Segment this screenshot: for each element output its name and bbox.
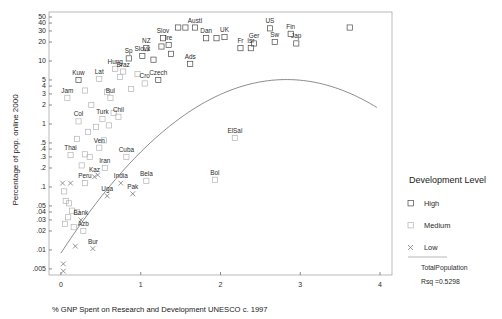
data-point-label: Ven	[94, 137, 105, 144]
data-point	[142, 81, 147, 86]
legend-marker-high[interactable]	[408, 201, 413, 206]
data-point-label: Chil	[113, 106, 124, 113]
data-point-label: Sw	[270, 31, 279, 38]
data-point	[166, 42, 171, 47]
data-point	[222, 34, 227, 39]
data-point-label: Turk	[96, 108, 109, 115]
data-point	[82, 181, 87, 186]
x-tick-label: 4	[378, 281, 382, 288]
data-point	[204, 36, 209, 41]
data-point	[73, 244, 78, 249]
data-point	[117, 74, 122, 79]
y-tick-label: 3	[42, 90, 46, 97]
legend-entry-label[interactable]: Medium	[424, 221, 450, 230]
y-tick-label: .4	[40, 145, 46, 152]
x-tick-label: 0	[59, 281, 63, 288]
regression-fit-line	[61, 80, 377, 254]
data-point-label: Bur	[88, 238, 99, 245]
x-axis-title: % GNP Spent on Research and Development …	[52, 305, 268, 314]
data-point	[76, 77, 81, 82]
data-point	[192, 25, 197, 30]
data-point	[74, 136, 79, 141]
y-tick-label: .005	[32, 265, 46, 272]
data-point-label: Fr	[237, 37, 244, 44]
data-point-label: Peru	[78, 172, 92, 179]
point-labels-layer: AustlUSFinSlovDanUKGerSwJapIreFrIsrNZSlo…	[61, 17, 302, 245]
data-point	[76, 119, 81, 124]
data-point-label: Bank	[74, 209, 89, 216]
legend-marker-low[interactable]	[408, 245, 413, 250]
y-tick-label: 10	[38, 57, 46, 64]
data-point	[183, 25, 188, 30]
data-point	[66, 215, 71, 220]
data-point-label: UK	[220, 26, 230, 33]
data-point	[82, 152, 87, 157]
x-tick-label: 2	[219, 281, 223, 288]
data-point	[106, 123, 111, 128]
data-point	[68, 153, 73, 158]
data-point	[62, 189, 67, 194]
data-point	[61, 262, 66, 267]
data-point	[81, 228, 86, 233]
data-point-label: ElSal	[227, 127, 242, 134]
legend-entry-label[interactable]: Low	[424, 243, 438, 252]
data-point-label: Sp	[125, 47, 133, 55]
legend-entry-label[interactable]: High	[424, 199, 439, 208]
legend: Development LevelHighMediumLowTotalPopul…	[408, 175, 486, 286]
data-point	[90, 246, 95, 251]
legend-note-rsq: Rsq =0.5298	[421, 278, 460, 286]
legend-title: Development Level	[409, 175, 486, 185]
data-point-label: Braz	[117, 61, 130, 68]
data-point	[212, 177, 217, 182]
data-point-label: Austl	[188, 17, 202, 24]
data-point	[105, 194, 110, 199]
data-point	[188, 61, 193, 66]
y-tick-label: .3	[40, 153, 46, 160]
data-point-label: Isr	[247, 37, 255, 44]
data-point	[85, 129, 90, 134]
data-points-layer	[60, 25, 352, 274]
x-axis-ticks: 01234	[59, 272, 382, 288]
data-point	[79, 163, 84, 168]
data-point-label: Bul	[106, 87, 115, 94]
y-tick-label: 30	[38, 27, 46, 34]
data-point-label: Col	[74, 110, 84, 117]
data-point	[140, 53, 145, 58]
data-point-label: Ads	[185, 53, 196, 60]
legend-marker-medium[interactable]	[408, 223, 413, 228]
data-point-label: India	[114, 172, 128, 179]
data-point	[214, 36, 219, 41]
y-tick-label: 4	[42, 82, 46, 89]
y-tick-label: .1	[40, 183, 46, 190]
data-point	[97, 76, 102, 81]
data-point-label: Ire	[165, 34, 173, 41]
data-point	[168, 51, 173, 56]
data-point	[62, 221, 67, 226]
data-point	[93, 124, 98, 129]
y-tick-label: .01	[36, 246, 46, 253]
chart-canvas: 504030201054321.5.4.3.2.1.05.04.03.02.01…	[0, 0, 502, 319]
data-point-label: Jam	[61, 87, 73, 94]
data-point	[124, 154, 129, 159]
data-point-label: Lat	[95, 68, 104, 75]
data-point	[60, 181, 65, 186]
data-point-label: Fin	[286, 23, 295, 30]
y-tick-label: .2	[40, 164, 46, 171]
data-point	[82, 88, 87, 93]
data-point	[89, 102, 94, 107]
data-point-label: Pak	[127, 183, 139, 190]
y-tick-label: 20	[38, 38, 46, 45]
legend-note-total-population: TotalPopulation	[421, 264, 468, 272]
data-point	[144, 178, 149, 183]
data-point-label: Iran	[99, 157, 110, 164]
y-tick-label: .03	[36, 216, 46, 223]
data-point	[102, 165, 107, 170]
data-point-label: Jap	[291, 32, 302, 40]
y-tick-label: 1	[42, 120, 46, 127]
x-tick-label: 3	[298, 281, 302, 288]
data-point	[238, 46, 243, 51]
y-tick-label: 2	[42, 101, 46, 108]
data-point	[61, 269, 66, 274]
data-point-label: Bol	[210, 169, 219, 176]
data-point	[159, 44, 164, 49]
